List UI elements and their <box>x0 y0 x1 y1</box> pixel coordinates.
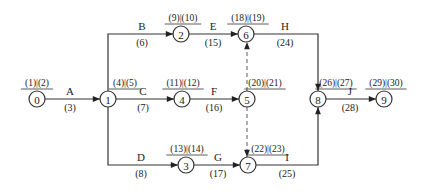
node-number-6: 6 <box>243 29 249 41</box>
node-time-tag-2: (9)|(10) <box>169 13 198 24</box>
network-diagram: 0(1)|(2)1(4)|(5)2(9)|(10)3(13)|(14)4(11)… <box>0 0 424 194</box>
node-number-1: 1 <box>105 94 111 106</box>
activity-duration-b: (6) <box>136 37 148 49</box>
node-number-7: 7 <box>245 160 251 172</box>
node-time-tag-4: (11)|(12) <box>166 78 199 89</box>
node-number-5: 5 <box>244 94 250 106</box>
activity-name-d: D <box>137 151 145 163</box>
activity-duration-g: (17) <box>210 168 227 180</box>
activity-duration-i: (25) <box>279 168 296 180</box>
activity-name-c: C <box>139 85 146 97</box>
activity-name-i: I <box>285 151 289 163</box>
activity-name-e: E <box>210 20 217 32</box>
activity-duration-f: (16) <box>206 102 223 114</box>
node-number-9: 9 <box>381 94 387 106</box>
activity-name-j: J <box>348 85 353 97</box>
activity-duration-a: (3) <box>64 102 76 114</box>
node-number-2: 2 <box>178 29 184 41</box>
activity-name-g: G <box>214 151 222 163</box>
activity-duration-j: (28) <box>342 102 359 114</box>
activity-duration-d: (8) <box>135 168 147 180</box>
node-number-3: 3 <box>183 160 189 172</box>
activity-duration-e: (15) <box>205 37 222 49</box>
node-time-tag-9: (29)|(30) <box>369 78 403 89</box>
node-number-8: 8 <box>315 94 321 106</box>
activity-name-h: H <box>281 20 289 32</box>
node-number-0: 0 <box>34 94 40 106</box>
node-time-tag-1: (4)|(5) <box>113 78 137 89</box>
node-time-tag-6: (18)|(19) <box>231 13 265 24</box>
node-time-tag-3: (13)|(14) <box>170 144 204 155</box>
node-time-tag-0: (1)|(2) <box>25 78 49 89</box>
activity-name-b: B <box>138 20 145 32</box>
node-time-tag-7: (22)|(23) <box>251 144 285 155</box>
activity-name-a: A <box>66 85 74 97</box>
activity-name-f: F <box>211 85 217 97</box>
node-number-4: 4 <box>179 94 185 106</box>
activity-duration-h: (24) <box>277 37 294 49</box>
activity-duration-c: (7) <box>137 102 149 114</box>
node-time-tag-5: (20)|(21) <box>248 78 282 89</box>
